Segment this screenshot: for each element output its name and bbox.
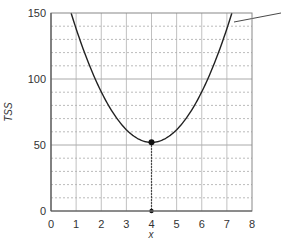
callout-leader-line <box>234 13 281 22</box>
x-tick-label: 5 <box>174 218 180 230</box>
minimum-point <box>149 139 155 145</box>
x-tick-label: 3 <box>123 218 129 230</box>
y-tick-label: 0 <box>40 205 46 217</box>
x-axis-label: x <box>148 229 155 240</box>
x-tick-label: 7 <box>224 218 230 230</box>
y-tick-label: 100 <box>28 73 46 85</box>
y-tick-label: 150 <box>28 7 46 19</box>
x-tick-label: 8 <box>249 218 255 230</box>
y-tick-labels: 050100150 <box>28 7 46 217</box>
x-tick-label: 1 <box>73 218 79 230</box>
y-axis-label: TSS <box>3 102 14 122</box>
x-tick-label: 2 <box>98 218 104 230</box>
y-tick-label: 50 <box>34 139 46 151</box>
x-tick-label: 0 <box>48 218 54 230</box>
x-tick-label: 6 <box>199 218 205 230</box>
tss-chart: 012345678 050100150 x TSS <box>0 0 281 242</box>
annotations <box>149 13 282 213</box>
